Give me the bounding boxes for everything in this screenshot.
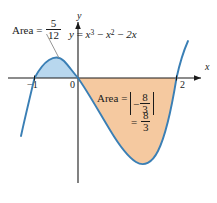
orange-area-word: Area [97, 92, 118, 104]
equation-term3: 2x [126, 28, 136, 40]
blue-area-equals: = [36, 24, 42, 36]
orange-result-fraction: 8 3 [141, 110, 151, 133]
y-axis-label: y [77, 11, 81, 21]
x-tick-label-neg-one: −1 [27, 80, 38, 90]
orange-area-minus-sign: − [133, 98, 139, 110]
blue-area-label: Area = 5 12 [12, 18, 62, 41]
x-tick-label-two: 2 [180, 80, 185, 90]
x-axis-arrowhead [194, 75, 201, 81]
equation-operator-2: − [117, 28, 123, 40]
orange-result-equals: = [131, 116, 137, 128]
orange-result-denominator: 3 [141, 122, 151, 133]
orange-area-equals: = [121, 92, 127, 104]
equation-lhs: y [69, 28, 74, 40]
x-axis-label: x [205, 62, 209, 72]
equation-equals: = [77, 28, 83, 40]
equation-term1-exponent: 3 [91, 28, 95, 37]
function-equation-label: y = x3 − x2 − 2x [69, 29, 137, 40]
blue-area-denominator: 12 [46, 30, 61, 41]
blue-area-fraction: 5 12 [46, 18, 61, 41]
equation-operator-1: − [97, 28, 103, 40]
x-tick-label-zero: 0 [70, 80, 75, 90]
math-figure-area-under-cubic: Area = 5 12 y = x3 − x2 − 2x Area = −83 … [0, 0, 217, 203]
blue-area-word: Area [12, 24, 33, 36]
equation-term2-exponent: 2 [111, 28, 115, 37]
orange-area-result-label: = 8 3 [131, 110, 151, 133]
